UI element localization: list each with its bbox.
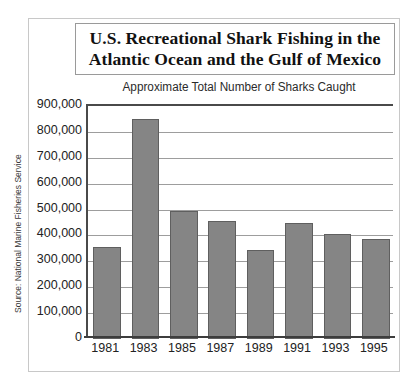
y-axis-tick-label: 100,000 bbox=[26, 304, 82, 318]
bar bbox=[132, 119, 160, 339]
bar bbox=[247, 250, 275, 339]
x-axis-line bbox=[84, 336, 395, 338]
x-axis-tick-label: 1989 bbox=[240, 341, 278, 355]
x-axis-tick-labels: 19811983198519871989199119931995 bbox=[86, 341, 393, 361]
bar bbox=[362, 239, 390, 339]
x-axis-tick-label: 1991 bbox=[278, 341, 316, 355]
y-axis-tick-label: 700,000 bbox=[26, 149, 82, 163]
y-axis-tick-label: 0 bbox=[26, 330, 82, 344]
plot-area bbox=[86, 104, 393, 337]
x-axis-tick-label: 1985 bbox=[163, 341, 201, 355]
y-axis-tick-labels: 0100,000200,000300,000400,000500,000600,… bbox=[24, 0, 82, 387]
y-axis-tick-label: 400,000 bbox=[26, 226, 82, 240]
bar bbox=[170, 211, 198, 339]
y-axis-tick-label: 200,000 bbox=[26, 278, 82, 292]
chart-title-line-1: U.S. Recreational Shark Fishing in the bbox=[90, 28, 381, 49]
bar bbox=[285, 223, 313, 340]
y-axis-tick-label: 600,000 bbox=[26, 175, 82, 189]
chart-figure: U.S. Recreational Shark Fishing in the A… bbox=[0, 0, 417, 387]
x-axis-tick-label: 1995 bbox=[355, 341, 393, 355]
y-axis-tick-label: 300,000 bbox=[26, 252, 82, 266]
x-axis-tick-label: 1983 bbox=[124, 341, 162, 355]
x-axis-tick-label: 1987 bbox=[201, 341, 239, 355]
y-axis-tick-label: 800,000 bbox=[26, 123, 82, 137]
bar-series bbox=[88, 106, 395, 339]
bar bbox=[93, 247, 121, 339]
x-axis-tick-label: 1993 bbox=[316, 341, 354, 355]
bar bbox=[324, 234, 352, 339]
chart-subtitle: Approximate Total Number of Sharks Caugh… bbox=[94, 80, 384, 94]
y-axis-tick-label: 500,000 bbox=[26, 201, 82, 215]
chart-title-box: U.S. Recreational Shark Fishing in the A… bbox=[75, 23, 395, 75]
y-axis-tick-label: 900,000 bbox=[26, 97, 82, 111]
bar bbox=[208, 221, 236, 339]
chart-title-line-2: Atlantic Ocean and the Gulf of Mexico bbox=[89, 49, 381, 70]
source-note: Source: National Marine Fisheries Servic… bbox=[13, 153, 23, 313]
x-axis-tick-label: 1981 bbox=[86, 341, 124, 355]
